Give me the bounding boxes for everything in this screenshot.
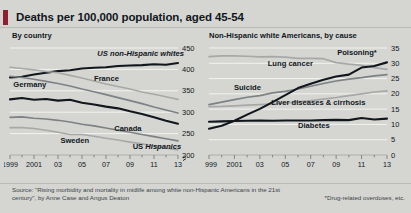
x-tick-label: 07: [307, 160, 315, 169]
series-label: Lung cancer: [268, 59, 313, 68]
x-tick-label: 05: [281, 160, 289, 169]
y-tick-label: 350: [182, 86, 195, 95]
series-label: Germany: [13, 80, 47, 89]
figure-header: Deaths per 100,000 population, aged 45-5…: [0, 8, 411, 26]
series-label: Suicide: [234, 83, 261, 92]
y-tick-label: 0: [391, 151, 395, 160]
y-tick-label: 20: [391, 89, 399, 98]
y-tick-label: 300: [182, 108, 195, 117]
x-tick-label: 03: [256, 160, 264, 169]
y-tick-label: 400: [182, 65, 195, 74]
series-label: Diabetes: [298, 121, 330, 130]
series-label: US Hispanics: [133, 142, 182, 151]
x-tick-label: 1999: [4, 160, 18, 169]
series-label: US non-Hispanic whites: [97, 49, 184, 58]
y-tick-label: 250: [182, 129, 195, 138]
footnote-text: *Drug-related overdoses, etc.: [325, 194, 405, 201]
chart-panel-by-country: 19992001030507091113200250300350400450US…: [4, 42, 204, 177]
y-tick-label: 30: [391, 59, 399, 68]
x-tick-label: 13: [383, 160, 391, 169]
x-tick-label: 09: [126, 160, 134, 169]
y-tick-label: 25: [391, 74, 399, 83]
x-tick-label: 09: [332, 160, 340, 169]
x-tick-label: 11: [358, 160, 365, 169]
header-divider: [0, 27, 411, 28]
y-tick-label: 5: [391, 135, 395, 144]
series-label: France: [94, 74, 119, 83]
x-tick-label: 11: [150, 160, 157, 169]
footer-divider: [0, 183, 411, 184]
series-label: Canada: [114, 124, 142, 133]
x-tick-label: 1999: [205, 160, 217, 169]
right-panel-title: Non-Hispanic white Americans, by cause: [209, 31, 357, 40]
chart-figure: Deaths per 100,000 population, aged 45-5…: [0, 0, 411, 213]
chart-panel-by-cause: 1999200103050709111305101520253035Lung c…: [205, 42, 409, 177]
series-label: Poisoning*: [337, 48, 377, 57]
x-tick-label: 03: [54, 160, 62, 169]
y-tick-label: 200: [182, 151, 195, 160]
left-panel-title: By country: [12, 31, 52, 40]
page-title: Deaths per 100,000 population, aged 45-5…: [16, 11, 244, 23]
x-tick-label: 2001: [226, 160, 242, 169]
series-label: Liver diseases & cirrhosis: [271, 98, 365, 107]
y-tick-label: 35: [391, 44, 399, 53]
series-line: [10, 98, 178, 124]
x-tick-label: 13: [174, 160, 182, 169]
x-tick-label: 05: [78, 160, 86, 169]
accent-bar-icon: [3, 10, 8, 25]
series-label: Sweden: [60, 136, 89, 145]
source-note: Source: "Rising morbidity and mortality …: [12, 186, 292, 202]
x-tick-label: 2001: [26, 160, 42, 169]
y-tick-label: 10: [391, 120, 399, 129]
x-tick-label: 07: [102, 160, 110, 169]
y-tick-label: 15: [391, 105, 399, 114]
y-tick-label: 450: [182, 44, 195, 53]
